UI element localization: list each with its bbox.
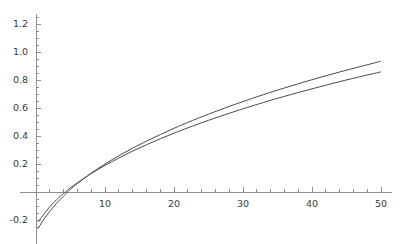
- y-tick-labels: -0.20.20.40.60.81.01.2: [9, 18, 28, 225]
- x-tick-labels: 1020304050: [99, 198, 387, 209]
- y-tick-label: 0.8: [13, 74, 28, 85]
- x-tick-label: 30: [237, 198, 249, 209]
- x-axis-group: 1020304050: [20, 187, 392, 209]
- y-tick-label: 0.2: [13, 158, 28, 169]
- plot-area: -0.20.20.40.60.81.01.2 1020304050: [0, 0, 400, 244]
- y-axis-group: -0.20.20.40.60.81.01.2: [9, 14, 41, 244]
- x-tick-label: 10: [99, 198, 111, 209]
- x-tick-marks: [50, 187, 381, 192]
- y-tick-label: 0.6: [13, 102, 28, 113]
- y-tick-label: -0.2: [9, 214, 28, 225]
- x-tick-label: 40: [306, 198, 318, 209]
- y-tick-label: 1.2: [13, 18, 28, 29]
- y-tick-label: 1.0: [13, 46, 28, 57]
- curve-upper: [38, 72, 381, 222]
- data-series-group: [38, 61, 381, 228]
- x-tick-label: 20: [168, 198, 180, 209]
- y-tick-marks: [36, 17, 41, 227]
- x-tick-label: 50: [375, 198, 387, 209]
- chart-figure: -0.20.20.40.60.81.01.2 1020304050: [0, 0, 400, 244]
- curve-lower: [38, 61, 381, 228]
- y-tick-label: 0.4: [13, 130, 28, 141]
